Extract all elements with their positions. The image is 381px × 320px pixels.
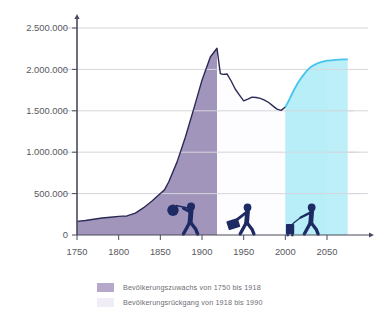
x-tick-label: 1950 [233,246,254,257]
x-axis-arrow [369,233,374,238]
x-tick-label: 2000 [275,246,296,257]
y-tick-label: 2.500.000 [26,22,68,33]
y-axis-arrow [74,14,79,19]
x-tick-label: 1900 [192,246,213,257]
figure-rolling-suitcase [286,224,294,234]
legend-item-growth: Bevölkerungszuwachs von 1750 bis 1918 [0,283,381,292]
y-tick-label: 500.000 [34,188,68,199]
x-tick-label: 1850 [150,246,171,257]
y-tick-label: 1.500.000 [26,105,68,116]
area-fills [77,18,368,235]
x-axis-tick-labels: 1750180018501900195020002050 [67,246,338,257]
x-tick-label: 1800 [108,246,129,257]
legend-swatch-growth [97,283,114,292]
y-axis-tick-labels: 0500.0001.000.0001.500.0002.000.0002.500… [26,22,68,240]
chart-legend: Bevölkerungszuwachs von 1750 bis 1918 Be… [0,283,381,313]
x-tick-label: 1750 [67,246,88,257]
x-tick-label: 2050 [317,246,338,257]
population-chart: 0500.0001.000.0001.500.0002.000.0002.500… [0,0,381,320]
legend-item-decline: Bevölkerungsrückgang von 1918 bis 1990 [0,298,381,307]
figure-bundle [167,205,178,216]
legend-label-decline: Bevölkerungsrückgang von 1918 bis 1990 [123,298,263,307]
y-tick-label: 0 [63,229,68,240]
y-tick-label: 1.000.000 [26,146,68,157]
y-tick-label: 2.000.000 [26,64,68,75]
chart-canvas: 0500.0001.000.0001.500.0002.000.0002.500… [0,0,381,283]
legend-label-growth: Bevölkerungszuwachs von 1750 bis 1918 [123,283,261,292]
legend-swatch-decline [97,298,114,307]
